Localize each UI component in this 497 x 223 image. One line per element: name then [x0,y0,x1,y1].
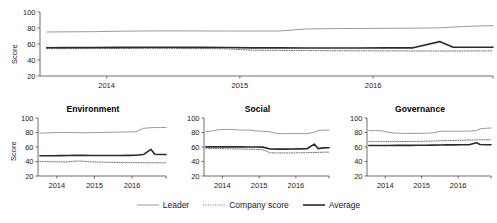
y-axis-label-overall: Score [10,44,19,64]
svg-text:40: 40 [191,157,199,166]
panel-title-governance: Governance [343,104,497,114]
legend-item-leader[interactable]: Leader [137,200,189,210]
svg-text:2016: 2016 [124,181,141,190]
svg-text:60: 60 [25,143,33,152]
legend-label-company-score: Company score [229,200,289,210]
svg-text:2014: 2014 [98,81,115,90]
svg-text:2016: 2016 [288,181,305,190]
legend-swatch-average [303,201,325,209]
svg-text:80: 80 [27,24,35,33]
chart-panel-environment: Environment Score 2040608010020142015201… [0,104,172,196]
figure-root: Score 20406080100201420152016 Environmen… [0,0,497,223]
plot-overall: 20406080100201420152016 [0,4,497,96]
svg-text:2014: 2014 [214,181,231,190]
svg-text:100: 100 [21,114,34,123]
svg-text:100: 100 [350,114,363,123]
svg-text:80: 80 [354,128,362,137]
svg-text:2016: 2016 [450,181,467,190]
legend-item-average[interactable]: Average [303,200,361,210]
chart-panel-governance: Governance 20406080100201420152016 [335,104,497,196]
svg-text:60: 60 [354,143,362,152]
svg-text:40: 40 [25,157,33,166]
svg-text:2015: 2015 [251,181,268,190]
legend-swatch-leader [137,201,159,209]
legend-item-company-score[interactable]: Company score [203,200,289,210]
svg-text:80: 80 [191,128,199,137]
svg-text:20: 20 [27,72,35,81]
chart-panel-social: Social 20406080100201420152016 [172,104,335,196]
svg-text:80: 80 [25,128,33,137]
chart-panel-overall: Score 20406080100201420152016 [0,4,497,96]
y-axis-label-environment: Score [9,141,18,161]
svg-text:20: 20 [354,172,362,181]
svg-text:40: 40 [27,56,35,65]
plot-social: 20406080100201420152016 [172,104,335,196]
svg-text:2014: 2014 [48,181,65,190]
chart-legend: Leader Company score Average [0,200,497,210]
svg-text:40: 40 [354,157,362,166]
plot-governance: 20406080100201420152016 [335,104,497,196]
svg-text:100: 100 [23,8,36,17]
panel-title-social: Social [180,104,335,114]
svg-text:60: 60 [27,40,35,49]
svg-text:2014: 2014 [377,181,394,190]
legend-swatch-company-score [203,201,225,209]
legend-label-average: Average [329,200,361,210]
plot-environment: 20406080100201420152016 [0,104,172,196]
panel-title-environment: Environment [14,104,172,114]
legend-label-leader: Leader [163,200,189,210]
svg-text:2015: 2015 [86,181,103,190]
svg-text:2015: 2015 [232,81,249,90]
svg-text:20: 20 [191,172,199,181]
svg-text:100: 100 [187,114,200,123]
svg-text:2016: 2016 [365,81,382,90]
svg-text:60: 60 [191,143,199,152]
svg-text:20: 20 [25,172,33,181]
svg-text:2015: 2015 [413,181,430,190]
